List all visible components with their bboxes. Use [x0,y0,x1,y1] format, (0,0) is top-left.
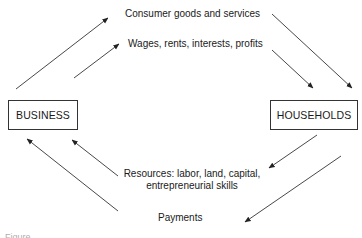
arrow-business-to-consumer-goods [16,18,108,89]
resources-label: Resources: labor, land, capital, entrepr… [117,168,267,192]
households-label: HOUSEHOLDS [277,109,352,121]
arrow-wages-to-households [272,50,313,88]
payments-label: Payments [158,212,202,224]
figure-caption: Figure [5,232,31,238]
households-node: HOUSEHOLDS [270,100,358,130]
consumer-goods-label: Consumer goods and services [125,8,260,20]
arrow-payments-to-business [27,139,118,211]
resources-label-line1: Resources: labor, land, capital, [117,168,267,180]
resources-label-line2: entrepreneurial skills [117,180,267,192]
wages-label: Wages, rents, interests, profits [128,38,263,50]
arrow-households-to-resources [269,135,317,168]
business-label: BUSINESS [16,109,70,121]
arrow-consumer-goods-to-households [272,14,352,88]
arrow-resources-to-business [72,140,118,176]
business-node: BUSINESS [8,100,78,130]
circular-flow-diagram: BUSINESS HOUSEHOLDS Consumer goods and s… [0,0,362,238]
arrow-business-to-wages [74,44,119,78]
